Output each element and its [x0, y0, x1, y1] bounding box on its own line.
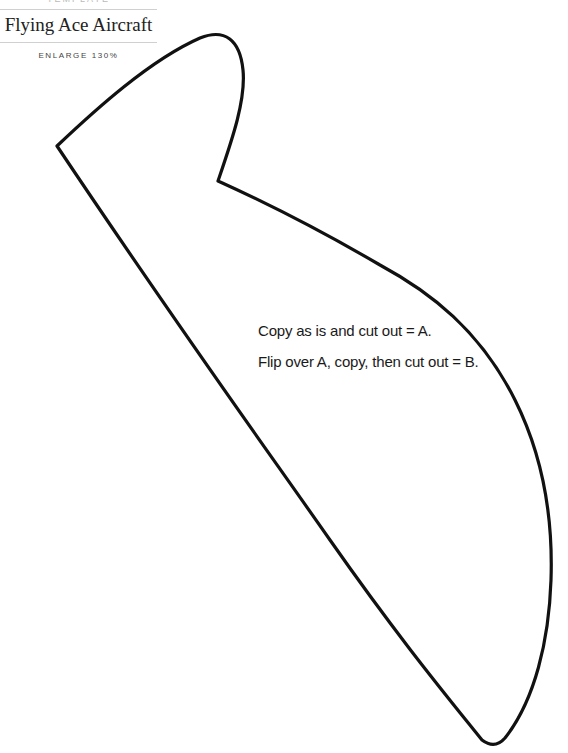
instruction-flip-b: Flip over A, copy, then cut out = B. [258, 353, 479, 370]
instruction-copy-a: Copy as is and cut out = A. [258, 322, 431, 339]
cutout-outline-path [57, 35, 551, 745]
cutout-shape-outline [0, 0, 568, 753]
